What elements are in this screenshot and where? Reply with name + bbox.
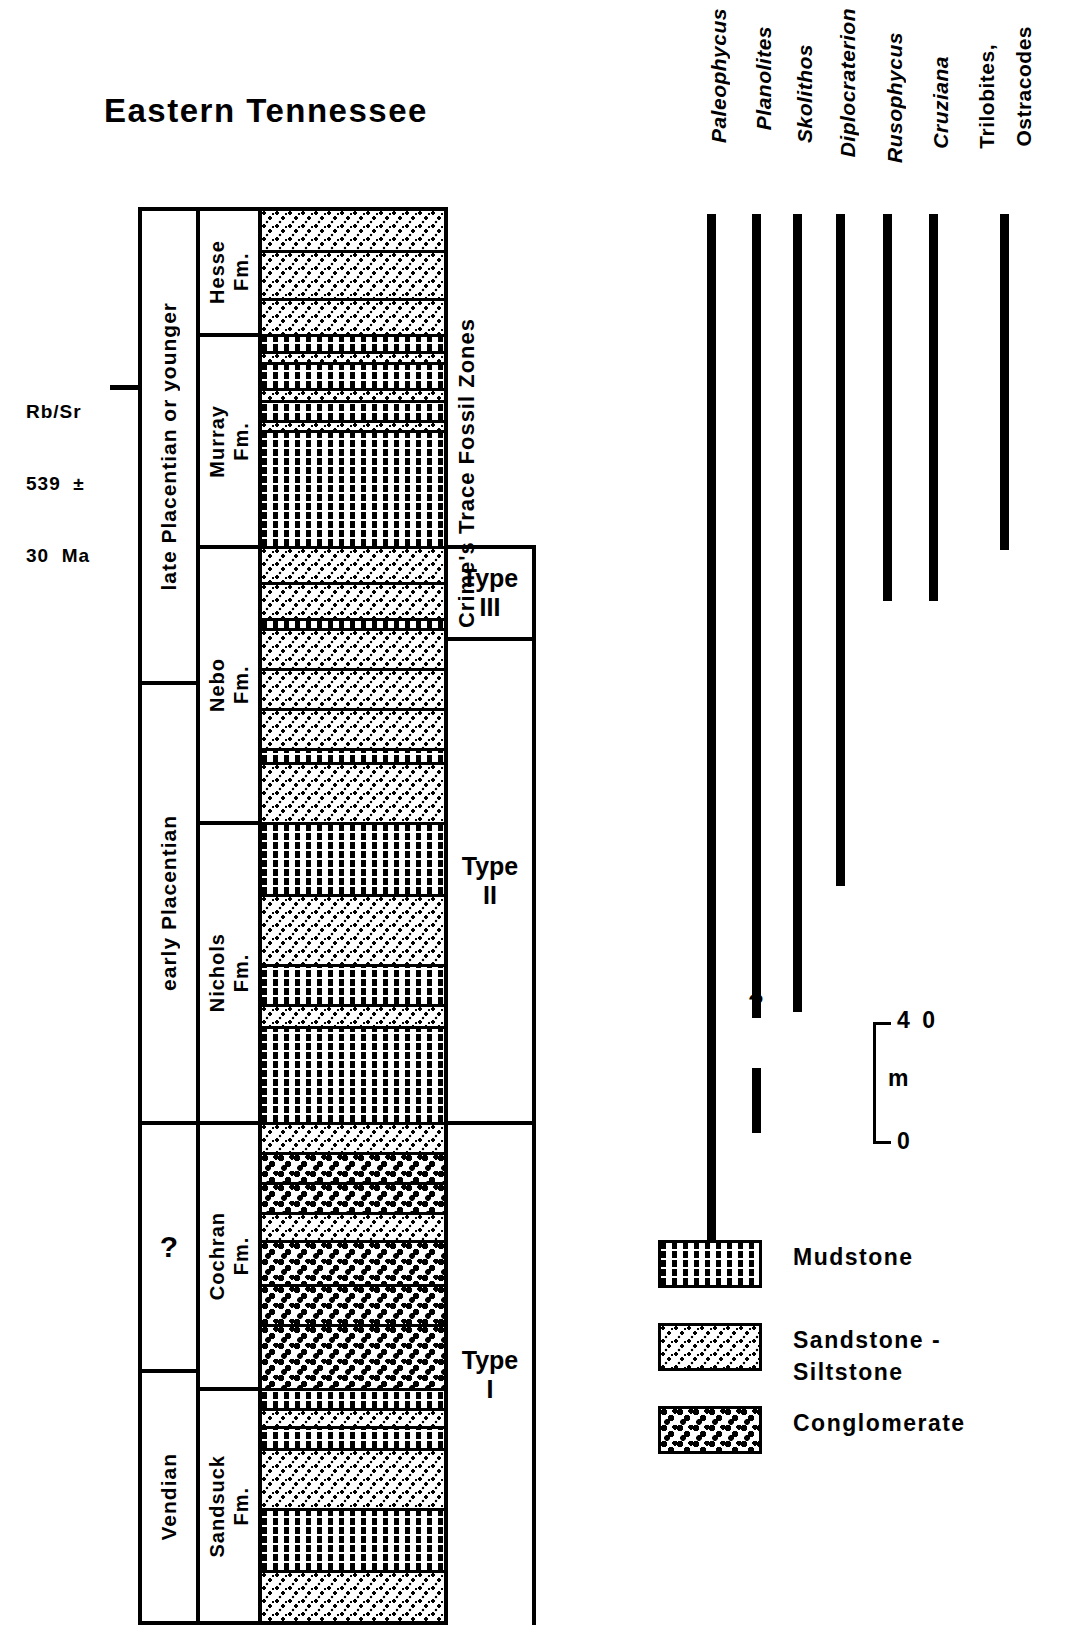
lithology-bed-mudstone — [262, 751, 444, 765]
age-cell: early Placentian — [142, 685, 196, 1125]
stratigraphic-column: late Placentian or youngerearly Placenti… — [138, 207, 444, 1625]
lithology-bed-mudstone — [262, 825, 444, 897]
radiometric-date-annotation: Rb/Sr 539 ± 30 Ma — [26, 352, 90, 592]
lithology-bed-sandstone — [262, 1411, 444, 1429]
age-label: early Placentian — [157, 815, 181, 991]
legend-label-conglomerate: Conglomerate — [793, 1407, 966, 1439]
legend-swatch-mudstone — [658, 1240, 762, 1288]
legend-swatch-sandstone — [658, 1323, 762, 1371]
lithology-bed-mudstone — [262, 1029, 444, 1125]
lithology-bed-mudstone — [262, 337, 444, 354]
formation-cell: NicholsFm. — [200, 825, 258, 1125]
trace-fossil-zone-box: TypeI — [444, 1125, 536, 1625]
range-bar — [707, 214, 716, 1248]
formation-cell: MurrayFm. — [200, 337, 258, 549]
lithology-bed-mudstone — [262, 365, 444, 391]
lithology-bed-sandstone — [262, 253, 444, 301]
lithology-bed-sandstone — [262, 1215, 444, 1243]
age-cell: late Placentian or younger — [142, 211, 196, 685]
formation-label: HesseFm. — [205, 240, 253, 304]
lithology-bed-mudstone — [262, 403, 444, 423]
lithology-bed-mudstone — [262, 1429, 444, 1451]
trace-fossil-zone-label: TypeIII — [462, 564, 519, 622]
lithology-bed-sandstone — [262, 631, 444, 671]
age-label: Vendian — [157, 1453, 181, 1541]
radiometric-tick-mark — [110, 385, 138, 390]
lithology-bed-conglomerate — [262, 1327, 444, 1391]
range-taxon-label: Trilobites, — [975, 44, 999, 149]
formation-label: CochranFm. — [205, 1212, 253, 1300]
legend-swatch-conglomerate — [658, 1406, 762, 1454]
formation-label: SandsuckFm. — [205, 1455, 253, 1557]
lithology-bed-sandstone — [262, 549, 444, 585]
lithology-bed-conglomerate — [262, 1243, 444, 1287]
range-bar — [1000, 214, 1009, 550]
lithology-bed-sandstone — [262, 711, 444, 751]
range-bar — [752, 1068, 761, 1133]
range-taxon-label: Cruziana — [929, 56, 953, 149]
legend-label-mudstone: Mudstone — [793, 1241, 914, 1273]
range-bar — [793, 214, 802, 1012]
lithology-bed-mudstone — [262, 1391, 444, 1411]
range-bar — [929, 214, 938, 601]
lithology-bed-mudstone — [262, 1511, 444, 1573]
rbsr-age-error: 30 Ma — [26, 544, 90, 568]
range-taxon-label: Diplocraterion — [836, 8, 860, 157]
range-taxon-label: Ostracodes — [1012, 26, 1036, 147]
rbsr-age-value: 539 ± — [26, 472, 90, 496]
lithology-bed-sandstone — [262, 1125, 444, 1155]
formation-cell: SandsuckFm. — [200, 1391, 258, 1621]
lithology-column — [262, 211, 444, 1621]
lithology-bed-sandstone — [262, 211, 444, 253]
lithology-bed-sandstone — [262, 301, 444, 337]
lithology-bed-mudstone — [262, 621, 444, 631]
trace-fossil-zone-box: TypeIII — [444, 545, 536, 641]
scale-bottom-label: 0 — [897, 1128, 910, 1155]
lithology-bed-sandstone — [262, 423, 444, 433]
range-taxon-label: Rusophycus — [883, 32, 907, 163]
age-label: late Placentian or younger — [157, 302, 181, 591]
lithology-bed-sandstone — [262, 1007, 444, 1029]
lithology-bed-sandstone — [262, 765, 444, 825]
range-bar — [883, 214, 892, 601]
formation-cell: HesseFm. — [200, 211, 258, 337]
range-taxon-label: Skolithos — [793, 44, 817, 143]
lithology-bed-conglomerate — [262, 1287, 444, 1327]
formation-label: MurrayFm. — [205, 405, 253, 478]
range-taxon-label: Planolites — [752, 26, 776, 130]
formation-cell: CochranFm. — [200, 1125, 258, 1391]
range-uncertain-mark: ? — [748, 988, 764, 1019]
range-bar — [752, 214, 761, 1018]
trace-fossil-zone-label: TypeII — [462, 852, 519, 910]
legend-label-sandstone: Sandstone -Siltstone — [793, 1324, 941, 1388]
range-bar — [836, 214, 845, 886]
age-cell: Vendian — [142, 1373, 196, 1621]
lithology-bed-sandstone — [262, 1573, 444, 1621]
lithology-bed-sandstone — [262, 897, 444, 967]
lithology-bed-sandstone — [262, 671, 444, 711]
age-cell: ? — [142, 1125, 196, 1373]
lithology-bed-conglomerate — [262, 1155, 444, 1185]
lithology-bed-sandstone — [262, 354, 444, 365]
lithology-bed-mudstone — [262, 967, 444, 1007]
lithology-bed-sandstone — [262, 585, 444, 621]
scale-top-label: 4 0 — [897, 1007, 938, 1034]
formation-label: NeboFm. — [205, 658, 253, 712]
lithology-bed-sandstone — [262, 391, 444, 403]
formation-cell: NeboFm. — [200, 549, 258, 825]
rbsr-method-label: Rb/Sr — [26, 400, 90, 424]
range-taxon-label: Paleophycus — [707, 8, 731, 143]
scale-unit-label: m — [888, 1065, 908, 1092]
formation-column: HesseFm.MurrayFm.NeboFm.NicholsFm.Cochra… — [200, 211, 262, 1621]
age-uncertain-mark: ? — [160, 1230, 178, 1264]
lithology-bed-conglomerate — [262, 1185, 444, 1215]
age-column: late Placentian or youngerearly Placenti… — [142, 211, 200, 1621]
formation-label: NicholsFm. — [205, 933, 253, 1012]
trace-fossil-zone-box: TypeII — [444, 641, 536, 1125]
lithology-bed-mudstone — [262, 433, 444, 549]
lithology-bed-sandstone — [262, 1451, 444, 1511]
trace-fossil-zone-label: TypeI — [462, 1346, 519, 1404]
page-title: Eastern Tennessee — [104, 92, 428, 130]
